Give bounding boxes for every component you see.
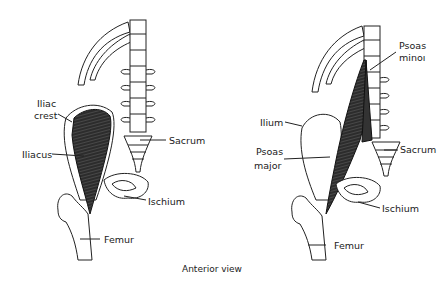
label-right-femur: Femur [334, 240, 364, 251]
label-right-sacrum: Sacrum [400, 144, 436, 155]
label-left-sacrum: Sacrum [169, 135, 205, 146]
label-psoas-minor-line2: minoı [399, 52, 425, 63]
left-anatomy [52, 20, 166, 260]
figure-caption: Anterior view [182, 264, 242, 274]
label-left-femur: Femur [104, 234, 134, 245]
label-psoas-major-line1: Psoas [256, 146, 283, 157]
label-psoas-major-line2: major [254, 160, 281, 171]
label-iliac-crest-line1: Iliac [37, 98, 56, 109]
right-anatomy [284, 26, 400, 260]
label-ilium: Ilium [260, 117, 283, 128]
label-right-ischium: Ischium [382, 203, 419, 214]
label-psoas-minor-line1: Psoas [399, 40, 426, 51]
label-left-ischium: Ischium [148, 196, 185, 207]
label-iliac-crest-line2: crest [34, 110, 57, 121]
label-iliacus: Iliacus [22, 149, 52, 160]
anatomy-figure [0, 0, 448, 282]
